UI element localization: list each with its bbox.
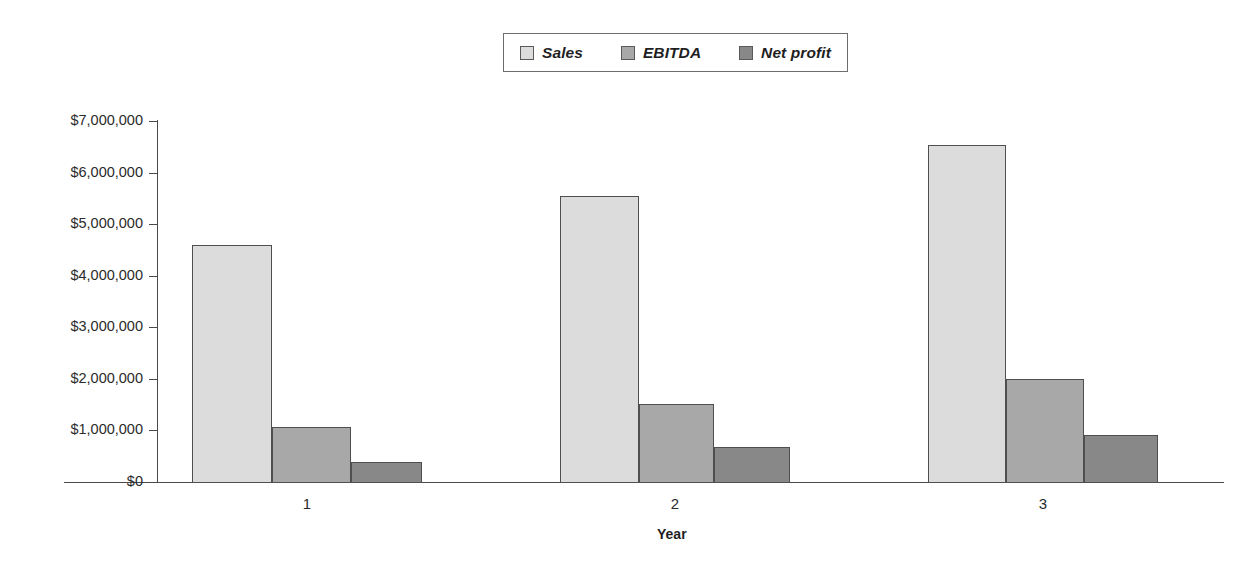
legend-entry-sales: Sales <box>520 44 583 62</box>
y-tick-mark <box>149 327 158 328</box>
bar-ebitda-year-3 <box>1006 379 1084 483</box>
legend-swatch-ebitda <box>621 46 635 60</box>
legend-swatch-sales <box>520 46 534 60</box>
bar-net-profit-year-3 <box>1084 435 1158 483</box>
x-tick-label-2: 2 <box>645 495 705 512</box>
legend-swatch-net-profit <box>739 46 753 60</box>
y-tick-mark <box>149 121 158 122</box>
y-tick-label: $0 <box>53 473 143 489</box>
y-tick-mark <box>149 276 158 277</box>
legend-entry-net-profit: Net profit <box>739 44 831 62</box>
y-tick-label: $7,000,000 <box>53 112 143 128</box>
y-tick-mark <box>149 430 158 431</box>
y-tick-label: $4,000,000 <box>53 267 143 283</box>
bar-sales-year-2 <box>560 196 639 483</box>
y-tick-label: $2,000,000 <box>53 370 143 386</box>
legend-entry-ebitda: EBITDA <box>621 44 701 62</box>
bar-sales-year-1 <box>192 245 272 483</box>
y-tick-label: $3,000,000 <box>53 318 143 334</box>
y-tick-mark <box>149 482 158 483</box>
y-axis-line <box>157 120 158 483</box>
legend-label-ebitda: EBITDA <box>643 44 701 62</box>
x-tick-label-3: 3 <box>1013 495 1073 512</box>
legend-label-net-profit: Net profit <box>761 44 831 62</box>
x-tick-label-1: 1 <box>277 495 337 512</box>
bar-ebitda-year-2 <box>639 404 714 483</box>
x-axis-title: Year <box>657 526 687 542</box>
bar-net-profit-year-2 <box>714 447 790 483</box>
bar-ebitda-year-1 <box>272 427 351 483</box>
y-tick-label: $6,000,000 <box>53 164 143 180</box>
y-tick-mark <box>149 379 158 380</box>
y-tick-label: $1,000,000 <box>53 421 143 437</box>
legend-label-sales: Sales <box>542 44 583 62</box>
y-tick-mark <box>149 224 158 225</box>
y-tick-mark <box>149 173 158 174</box>
chart-legend: Sales EBITDA Net profit <box>503 33 848 72</box>
bar-chart: Sales EBITDA Net profit $0$1,000,000$2,0… <box>0 0 1248 587</box>
bar-sales-year-3 <box>928 145 1006 483</box>
y-tick-label: $5,000,000 <box>53 215 143 231</box>
bar-net-profit-year-1 <box>351 462 422 483</box>
